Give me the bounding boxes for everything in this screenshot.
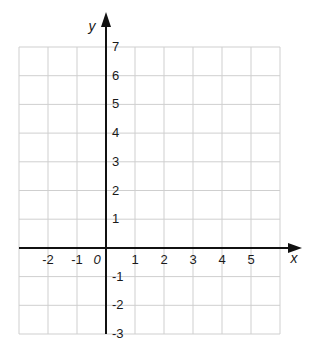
grid	[19, 47, 280, 334]
y-axis-label: y	[88, 18, 97, 34]
y-tick-label: 7	[112, 39, 119, 54]
x-tick-label: 2	[160, 252, 167, 267]
x-tick-label: 1	[131, 252, 138, 267]
tick-labels: -2-1123457654321-1-2-30xy	[42, 18, 298, 341]
y-tick-label: -1	[112, 269, 124, 284]
y-tick-label: -3	[112, 326, 124, 341]
x-tick-label: -2	[42, 252, 54, 267]
origin-label: 0	[93, 252, 101, 267]
y-tick-label: 1	[112, 211, 119, 226]
y-tick-label: 4	[112, 125, 119, 140]
x-axis-label: x	[290, 250, 299, 266]
y-tick-label: 3	[112, 154, 119, 169]
x-tick-label: -1	[71, 252, 83, 267]
x-tick-label: 4	[218, 252, 225, 267]
y-axis-arrow-icon	[101, 12, 111, 27]
y-tick-label: 6	[112, 68, 119, 83]
y-tick-label: 2	[112, 183, 119, 198]
axes	[19, 12, 302, 334]
coordinate-plane: -2-1123457654321-1-2-30xy	[0, 0, 318, 352]
x-tick-label: 3	[189, 252, 196, 267]
y-tick-label: -2	[112, 297, 124, 312]
y-tick-label: 5	[112, 96, 119, 111]
x-tick-label: 5	[247, 252, 254, 267]
